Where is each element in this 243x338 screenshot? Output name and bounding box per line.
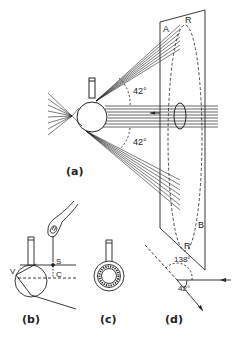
diagram-svg: 42° 42° A R R B S C V 138° 42° (a) (b) (… [0,0,243,338]
incoming-beam [103,106,218,127]
screen-plane [160,10,205,270]
panel-label-b: (b) [22,313,40,326]
ring-label-r-bottom: R [184,241,191,251]
aperture-hole [174,103,186,129]
rainbow-ring [168,25,202,251]
angle-label-138: 138° [174,255,191,264]
label-v: V [10,267,16,276]
angle-label-42: 42° [178,284,190,293]
rainbow-flask-diagram: 42° 42° A R R B S C V 138° 42° (a) (b) (… [0,0,243,338]
panel-label-c: (c) [100,313,117,326]
ring-label-r-top: R [185,15,192,25]
angle-label-upper: 42° [133,86,147,96]
panel-b [15,201,78,309]
angle-label-lower: 42° [133,137,147,147]
label-s: S [56,257,61,266]
plane-corner-a: A [163,24,169,34]
panel-label-a: (a) [66,165,83,178]
panel-label-d: (d) [165,313,183,326]
angle-arc-lower [121,128,130,148]
label-c: C [56,270,62,279]
plane-corner-b: B [198,220,204,230]
hand [48,201,78,237]
flask [77,78,107,132]
panel-c [94,240,124,291]
angle-arc-138 [166,263,192,280]
